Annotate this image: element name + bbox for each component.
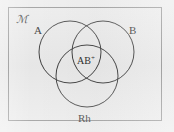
circle-rh-label: Rh: [78, 113, 91, 124]
circle-b-label: B: [129, 25, 136, 36]
universal-set-label: ℳ: [16, 14, 28, 25]
venn-diagram-figure: ℳ A B AB+ Rh: [0, 0, 174, 132]
intersection-ab-plus-label: AB+: [77, 56, 95, 66]
circle-a: [39, 21, 101, 83]
circle-b: [72, 21, 134, 83]
circle-a-label: A: [34, 25, 42, 36]
intersection-base-text: AB: [77, 55, 91, 66]
intersection-superscript-plus: +: [91, 54, 95, 62]
